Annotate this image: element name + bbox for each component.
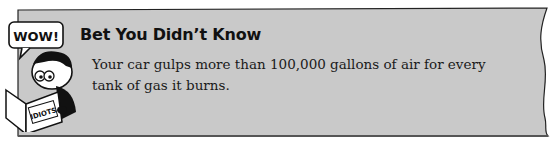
sidebar-title: Bet You Didn’t Know xyxy=(80,25,261,44)
sidebar-body: Your car gulps more than 100,000 gallons… xyxy=(92,54,512,96)
speech-bubble-text: WOW! xyxy=(13,29,59,44)
